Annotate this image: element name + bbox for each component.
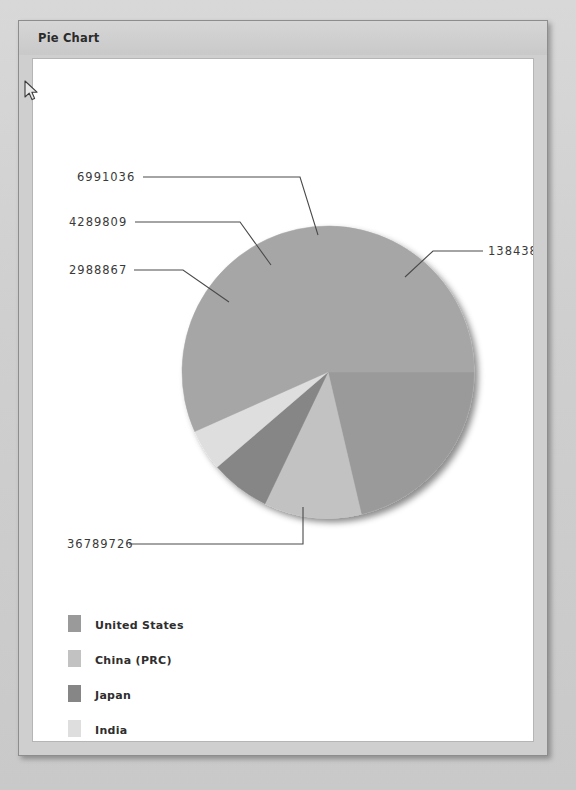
- page-title: Pie Chart: [38, 31, 100, 45]
- mouse-pointer-icon: [24, 80, 40, 102]
- legend-label-united-states: United States: [95, 619, 184, 632]
- legend-label-japan: Japan: [94, 689, 131, 702]
- callout-label-japan: 4289809: [69, 215, 127, 229]
- chart-window: Pie Chart 6991036 4289809 2988867: [18, 20, 548, 756]
- leader-line-china: [143, 177, 318, 235]
- legend-swatch-china-prc: [68, 650, 81, 667]
- chart-canvas: 6991036 4289809 2988867 13843825 3678972…: [32, 58, 534, 742]
- callout-label-row: 36789726: [67, 537, 134, 551]
- callout-label-us: 13843825: [488, 244, 533, 258]
- callout-label-china: 6991036: [77, 170, 135, 184]
- chart-legend: United States China (PRC) Japan India Re…: [68, 615, 209, 741]
- legend-label-china-prc: China (PRC): [95, 654, 172, 667]
- window-titlebar: Pie Chart: [19, 21, 547, 55]
- legend-label-india: India: [95, 724, 128, 737]
- legend-swatch-united-states: [68, 615, 81, 632]
- leader-line-row: [129, 507, 303, 544]
- legend-swatch-japan: [68, 685, 81, 702]
- callout-label-india: 2988867: [69, 263, 127, 277]
- pie-chart-svg: 6991036 4289809 2988867 13843825 3678972…: [33, 59, 533, 741]
- legend-swatch-india: [68, 720, 81, 737]
- pie-slices-group: [182, 226, 474, 518]
